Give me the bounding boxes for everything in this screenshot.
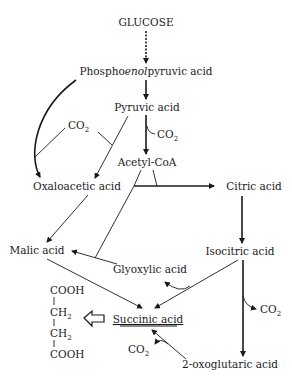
edge-pyruvic-co2-release <box>147 126 155 134</box>
svg-text:CH2: CH2 <box>50 306 72 321</box>
node-succinic-acid: Succinic acid <box>113 313 184 325</box>
edge-acetyl-join-b <box>153 170 157 186</box>
node-glyoxylic-acid: Glyoxylic acid <box>113 263 187 275</box>
metabolic-pathway-diagram: GLUCOSE Phosphoenolpyruvic acid Pyruvic … <box>0 0 292 379</box>
edge-oxoglutaric-co2-release <box>155 341 168 345</box>
svg-text:COOH: COOH <box>50 348 84 360</box>
svg-text:CH2: CH2 <box>50 327 72 342</box>
edge-pyruvic-to-oxaloacetic <box>95 116 128 178</box>
node-phosphoenolpyruvic-acid: Phosphoenolpyruvic acid <box>79 65 212 77</box>
node-oxaloacetic-acid: Oxaloacetic acid <box>33 180 121 192</box>
svg-text:COOH: COOH <box>50 284 84 296</box>
co2-label-pep-carboxylation: CO2 <box>68 119 89 134</box>
edge-glyoxylic-to-malic <box>72 251 117 264</box>
edge-isocitric-co2-release <box>243 296 256 309</box>
edge-oxaloacetic-to-malic <box>47 195 88 242</box>
node-malic-acid: Malic acid <box>9 244 64 256</box>
edge-acetyl-join-a <box>134 170 141 186</box>
node-isocitric-acid: Isocitric acid <box>205 245 274 257</box>
co2-label-isocitrate-decarboxylation: CO2 <box>260 303 281 318</box>
node-glucose: GLUCOSE <box>118 16 173 28</box>
node-2-oxoglutaric-acid: 2-oxoglutaric acid <box>182 358 278 370</box>
edge-glyoxylic-release <box>165 282 190 289</box>
edge-acetyl-to-glyoxylate-join <box>95 186 134 258</box>
node-acetyl-coa: Acetyl-CoA <box>117 156 177 168</box>
co2-label-pyruvate-decarboxylation: CO2 <box>157 128 178 143</box>
co2-label-oxoglutarate-decarboxylation: CO2 <box>128 343 149 358</box>
edge-co2-join-pyruvic <box>98 132 112 145</box>
succinic-acid-structure: COOH CH2 CH2 COOH <box>50 284 84 360</box>
node-pyruvic-acid: Pyruvic acid <box>114 101 180 113</box>
hollow-arrow-icon <box>84 311 104 326</box>
edge-oxoglutaric-to-succinic <box>152 330 186 359</box>
node-citric-acid: Citric acid <box>226 180 282 192</box>
